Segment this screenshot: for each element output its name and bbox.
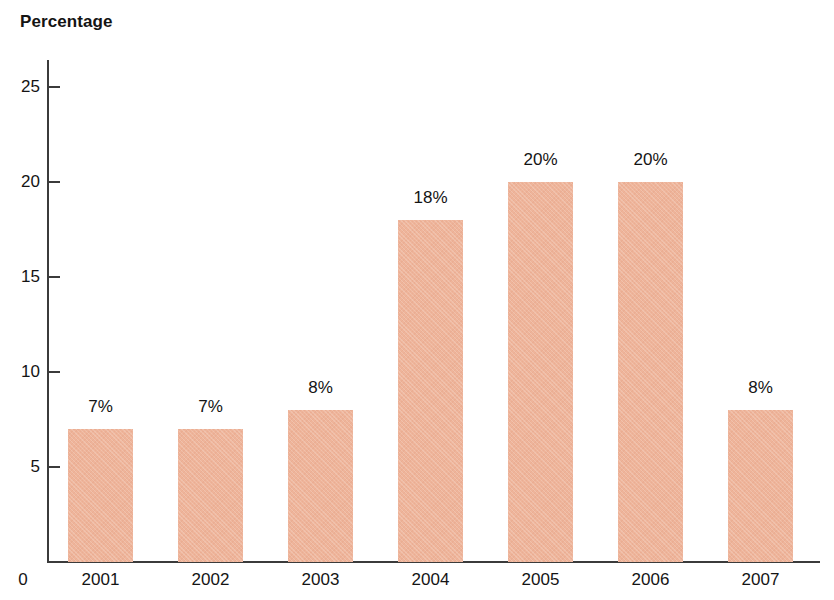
x-axis-tick-label: 2007 bbox=[742, 570, 780, 590]
x-axis-tick-label: 2006 bbox=[632, 570, 670, 590]
bar-value-label: 20% bbox=[633, 150, 667, 170]
y-axis-origin-label: 0 bbox=[3, 570, 43, 590]
plot-area bbox=[48, 60, 820, 562]
y-axis-tick-label: 10 bbox=[0, 362, 40, 382]
bar-value-label: 18% bbox=[413, 188, 447, 208]
bar-value-label: 7% bbox=[198, 397, 223, 417]
bar-chart: Percentage 510152025 0 20012002200320042… bbox=[0, 0, 834, 600]
x-axis-tick-label: 2005 bbox=[522, 570, 560, 590]
x-axis-tick-label: 2002 bbox=[192, 570, 230, 590]
bar-value-label: 8% bbox=[308, 378, 333, 398]
bar bbox=[398, 220, 463, 562]
page-title: Percentage bbox=[20, 12, 113, 32]
bar bbox=[728, 410, 793, 562]
bar bbox=[618, 182, 683, 562]
bar-value-label: 20% bbox=[523, 150, 557, 170]
bar bbox=[68, 429, 133, 562]
y-axis-tick-label: 15 bbox=[0, 267, 40, 287]
bar bbox=[178, 429, 243, 562]
y-axis-tick-label: 25 bbox=[0, 77, 40, 97]
x-axis-tick-label: 2003 bbox=[302, 570, 340, 590]
bar bbox=[508, 182, 573, 562]
y-axis-tick-label: 5 bbox=[0, 457, 40, 477]
bar bbox=[288, 410, 353, 562]
x-axis-tick-label: 2004 bbox=[412, 570, 450, 590]
bar-value-label: 7% bbox=[88, 397, 113, 417]
y-axis-tick-label: 20 bbox=[0, 172, 40, 192]
bar-value-label: 8% bbox=[748, 378, 773, 398]
x-axis-tick-label: 2001 bbox=[82, 570, 120, 590]
